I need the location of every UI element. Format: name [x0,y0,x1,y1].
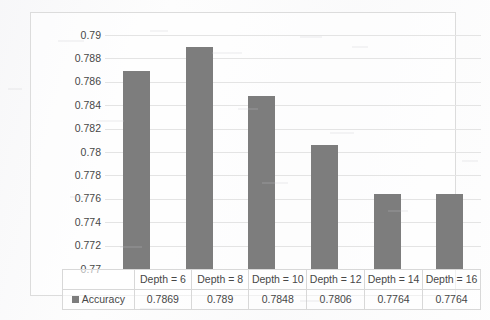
table-value-cell: 0.7764 [365,290,423,310]
y-axis-tick-label: 0.774 [57,217,101,228]
table-corner-cell [63,270,135,290]
y-axis-tick-label: 0.778 [57,170,101,181]
bar [186,47,213,269]
y-axis-tick-label: 0.79 [57,30,101,41]
table-value-cell: 0.7806 [307,290,365,310]
bar-series-accuracy [105,35,481,269]
y-axis-tick-label: 0.772 [57,240,101,251]
table-value-cell: 0.7848 [249,290,307,310]
bar [123,71,150,269]
table-header-cell: Depth = 10 [249,270,307,290]
legend-accuracy: Accuracy [63,290,135,310]
table-header-cell: Depth = 8 [192,270,249,290]
legend-label: Accuracy [82,290,125,309]
table-header-cell: Depth = 6 [134,270,191,290]
table-value-cell: 0.7764 [423,290,481,310]
chart-frame: 0.790.7880.7860.7840.7820.780.7780.7760.… [30,12,456,296]
bar [436,194,463,269]
table-value-cell: 0.789 [192,290,249,310]
chart-data-table: Depth = 6 Depth = 8 Depth = 10 Depth = 1… [62,269,481,310]
table-row-values: Accuracy 0.7869 0.789 0.7848 0.7806 0.77… [63,290,481,310]
y-axis: 0.790.7880.7860.7840.7820.780.7780.7760.… [61,27,105,277]
y-axis-tick-label: 0.78 [57,147,101,158]
table-header-cell: Depth = 16 [423,270,481,290]
y-axis-tick-label: 0.788 [57,53,101,64]
y-axis-tick-label: 0.786 [57,76,101,87]
bar [374,194,401,269]
y-axis-tick-label: 0.784 [57,100,101,111]
y-axis-tick-label: 0.782 [57,123,101,134]
legend-swatch-icon [72,296,79,303]
y-axis-tick-label: 0.776 [57,193,101,204]
table-header-cell: Depth = 12 [307,270,365,290]
table-row-headers: Depth = 6 Depth = 8 Depth = 10 Depth = 1… [63,270,481,290]
table-header-cell: Depth = 14 [365,270,423,290]
table-value-cell: 0.7869 [134,290,191,310]
bar [248,96,275,269]
bar [311,145,338,269]
